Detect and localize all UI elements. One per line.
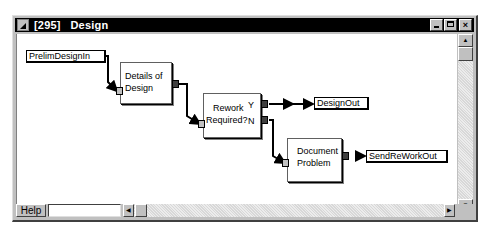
input-port[interactable] xyxy=(198,120,205,128)
help-label: Help xyxy=(21,205,42,216)
output-send-rework-out[interactable]: SendReWorkOut xyxy=(366,150,448,163)
scroll-right-button[interactable]: ▶ xyxy=(444,204,455,217)
arrow-right-icon: ▶ xyxy=(447,207,452,213)
arrow-up-icon: ▲ xyxy=(463,37,469,43)
close-icon: × xyxy=(463,20,468,30)
output-port[interactable] xyxy=(172,80,179,88)
window-title: [295] Design xyxy=(34,18,108,32)
maximize-button[interactable] xyxy=(444,19,457,31)
process-document-problem[interactable]: Document Problem xyxy=(287,138,342,182)
output-label: DesignOut xyxy=(317,98,360,108)
process-details-of-design[interactable]: Details of Design xyxy=(120,62,172,104)
input-prelim-design-in[interactable]: PrelimDesignIn xyxy=(26,50,106,63)
arrow-left-icon: ◀ xyxy=(126,207,131,213)
vertical-scroll-thumb[interactable] xyxy=(458,47,473,61)
process-label-line2: Design xyxy=(125,82,153,94)
scroll-left-button[interactable]: ◀ xyxy=(123,204,134,217)
output-label: SendReWorkOut xyxy=(369,151,437,161)
help-button[interactable]: Help xyxy=(16,204,46,217)
yes-output-port[interactable] xyxy=(261,100,268,108)
maximize-icon xyxy=(447,21,454,27)
process-label-line1: Document xyxy=(297,145,338,157)
vertical-scrollbar[interactable]: ▲ ▼ xyxy=(458,34,473,212)
size-grip[interactable] xyxy=(458,204,473,217)
status-field[interactable] xyxy=(48,204,121,217)
output-port[interactable] xyxy=(342,152,349,160)
process-label-line1: Rework xyxy=(213,102,244,114)
bottom-bar: Help ◀ ▶ xyxy=(16,204,473,217)
process-rework-required[interactable]: Rework Required? Y N xyxy=(203,93,261,138)
system-menu-icon[interactable] xyxy=(17,19,29,31)
scroll-up-button[interactable]: ▲ xyxy=(458,34,473,47)
output-design-out[interactable]: DesignOut xyxy=(314,97,369,110)
close-button[interactable]: × xyxy=(459,19,472,31)
input-port[interactable] xyxy=(116,87,123,95)
input-label: PrelimDesignIn xyxy=(29,51,90,61)
minimize-button[interactable] xyxy=(430,19,443,31)
process-label-line2: Required? xyxy=(206,114,248,126)
title-bar[interactable]: [295] Design × xyxy=(15,18,474,32)
process-label-line2: Problem xyxy=(297,157,331,169)
horizontal-scroll-thumb[interactable] xyxy=(135,204,147,217)
input-port[interactable] xyxy=(282,159,289,167)
process-label-line1: Details of xyxy=(125,70,163,82)
design-window: [295] Design × PrelimDesignIn xyxy=(12,15,478,222)
yes-port-label: Y xyxy=(248,99,254,111)
no-port-label: N xyxy=(248,115,255,127)
horizontal-scrollbar[interactable]: ◀ ▶ xyxy=(123,204,455,217)
no-output-port[interactable] xyxy=(261,116,268,124)
diagram-canvas[interactable]: PrelimDesignIn Details of Design Rework … xyxy=(16,34,457,212)
minimize-icon xyxy=(434,26,439,28)
